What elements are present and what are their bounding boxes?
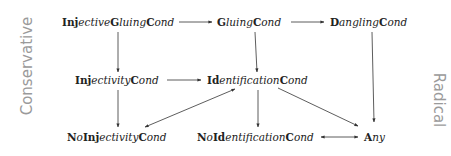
node-injective-gluing-cond: InjectiveGluingCond: [62, 17, 174, 28]
node-no-identification-cond: NoIdentificationCond: [197, 132, 314, 143]
edge-identification-any: [278, 88, 358, 126]
edge-gluing-identification: [255, 32, 257, 72]
node-no-injectivity-cond: NoInjectivityCond: [67, 132, 167, 143]
edge-identification-noinjectivity: [145, 89, 235, 127]
diagram-canvas: Conservative Radical InjectiveGluingCond…: [0, 0, 451, 156]
radical-label: Radical: [431, 73, 446, 128]
node-dangling-cond: DanglingCond: [330, 17, 407, 28]
node-any: Any: [364, 132, 385, 143]
conservative-label: Conservative: [20, 17, 35, 116]
node-gluing-cond: GluingCond: [217, 17, 281, 28]
node-identification-cond: IdentificationCond: [207, 75, 308, 86]
edge-dangling-any: [372, 32, 374, 122]
node-injectivity-cond: InjectivityCond: [75, 75, 159, 86]
